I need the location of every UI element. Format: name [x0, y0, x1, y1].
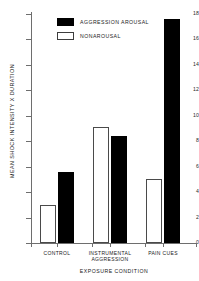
y-tick-mark: [26, 65, 31, 66]
y-tick-label: 18: [177, 11, 199, 16]
y-tick-label: 12: [177, 87, 199, 92]
x-tick-mark: [57, 243, 58, 247]
bar-control-nonarousal: [40, 205, 56, 243]
y-tick-mark: [26, 141, 31, 142]
y-tick-mark: [26, 39, 31, 40]
x-tick-mark: [92, 243, 93, 247]
legend: AGGRESSION AROUSAL NONAROUSAL: [57, 18, 149, 46]
x-tick-label-line: AGGRESSION: [77, 256, 143, 262]
legend-item-nonarousal: NONAROUSAL: [57, 32, 149, 40]
x-tick-label-line: PAIN CUES: [130, 250, 196, 256]
y-tick-mark: [26, 90, 31, 91]
legend-swatch-aggression-arousal: [57, 18, 74, 26]
y-tick-mark: [26, 192, 31, 193]
x-axis-line: [31, 243, 197, 244]
y-tick-label: 2: [177, 215, 199, 220]
y-tick-label: 8: [177, 138, 199, 143]
y-tick-label: 10: [177, 113, 199, 118]
bar-instrumental-aggression-nonarousal: [93, 127, 109, 243]
x-tick-mark: [163, 243, 164, 247]
legend-label-aggression-arousal: AGGRESSION AROUSAL: [80, 19, 149, 25]
bar-pain-cues-aggression-arousal: [164, 19, 180, 243]
x-tick-mark: [31, 243, 32, 247]
legend-label-nonarousal: NONAROUSAL: [80, 33, 121, 39]
x-tick-label-pain-cues: PAIN CUES: [130, 250, 196, 256]
y-tick-label: 16: [177, 36, 199, 41]
x-tick-mark: [196, 243, 197, 247]
y-axis-line: [31, 12, 32, 244]
y-tick-mark: [26, 14, 31, 15]
y-tick-mark: [26, 167, 31, 168]
y-tick-mark: [26, 116, 31, 117]
bar-chart-figure: 024681012141618 MEAN SHOCK INTENSITY X D…: [0, 0, 199, 281]
legend-item-aggression-arousal: AGGRESSION AROUSAL: [57, 18, 149, 26]
y-tick-mark: [26, 218, 31, 219]
y-tick-label: 14: [177, 62, 199, 67]
y-axis-title: MEAN SHOCK INTENSITY X DURATION: [9, 56, 15, 186]
y-tick-label: 4: [177, 189, 199, 194]
legend-swatch-nonarousal: [57, 32, 74, 40]
x-tick-mark: [110, 243, 111, 247]
y-tick-label: 6: [177, 164, 199, 169]
x-axis-title: EXPOSURE CONDITION: [31, 268, 197, 274]
bar-pain-cues-nonarousal: [146, 179, 162, 243]
bar-instrumental-aggression-aggression-arousal: [111, 136, 127, 243]
x-tick-mark: [145, 243, 146, 247]
bar-control-aggression-arousal: [58, 172, 74, 243]
